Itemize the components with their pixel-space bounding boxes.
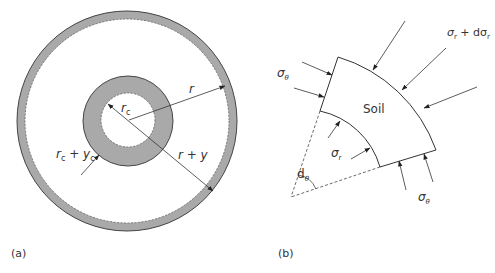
label-sigma-theta-bottom: σθ <box>418 190 431 206</box>
label-r-plus-y: r + y <box>178 148 209 162</box>
sigma-theta-left-arrow-1 <box>302 62 332 75</box>
radial-dashed-left <box>291 111 320 197</box>
sigma-r-outer-arrow-1 <box>373 21 405 70</box>
panel-b-caption: (b) <box>278 247 294 260</box>
cavity-boundary <box>101 93 155 147</box>
sigma-r-outer-arrow-3 <box>424 87 477 108</box>
sigma-theta-bottom-arrow-1 <box>399 161 406 190</box>
sigma-r-inner-arrow-1 <box>328 121 340 138</box>
label-d-theta: dθ <box>297 167 310 183</box>
sigma-r-inner-arrow-2 <box>351 148 370 159</box>
sigma-r-outer-arrow-2 <box>402 48 446 90</box>
label-sigma-r: σr <box>331 146 342 162</box>
sigma-theta-bottom-arrow-2 <box>424 154 433 182</box>
sigma-theta-left-arrow-2 <box>294 88 324 97</box>
panel-b-soil-element: Soil σθ σr + dσr σr dθ σθ (b) <box>277 21 490 260</box>
label-sigma-r-plus-d-sigma-r: σr + dσr <box>447 26 490 41</box>
panel-a-caption: (a) <box>11 247 26 260</box>
panel-a-tunnel-cross-section: r rc rc + yc r + y (a) <box>11 11 237 260</box>
label-soil: Soil <box>363 102 385 116</box>
label-sigma-theta-left: σθ <box>277 66 290 82</box>
figure-canvas: r rc rc + yc r + y (a) Soil <box>0 0 495 273</box>
